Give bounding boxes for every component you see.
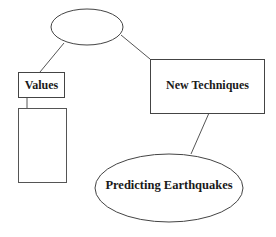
values-node-label: Values [18, 78, 65, 93]
values-child-empty-node [19, 109, 67, 183]
edge-top-values [40, 43, 64, 72]
concept-map-canvas [0, 0, 276, 237]
edge-top-new-techniques [121, 35, 150, 59]
predicting-earthquakes-node-label: Predicting Earthquakes [95, 178, 243, 193]
new-techniques-node-label: New Techniques [150, 78, 265, 93]
top-empty-ellipse-node [51, 9, 123, 45]
edge-new-techniques-predicting [191, 113, 209, 154]
